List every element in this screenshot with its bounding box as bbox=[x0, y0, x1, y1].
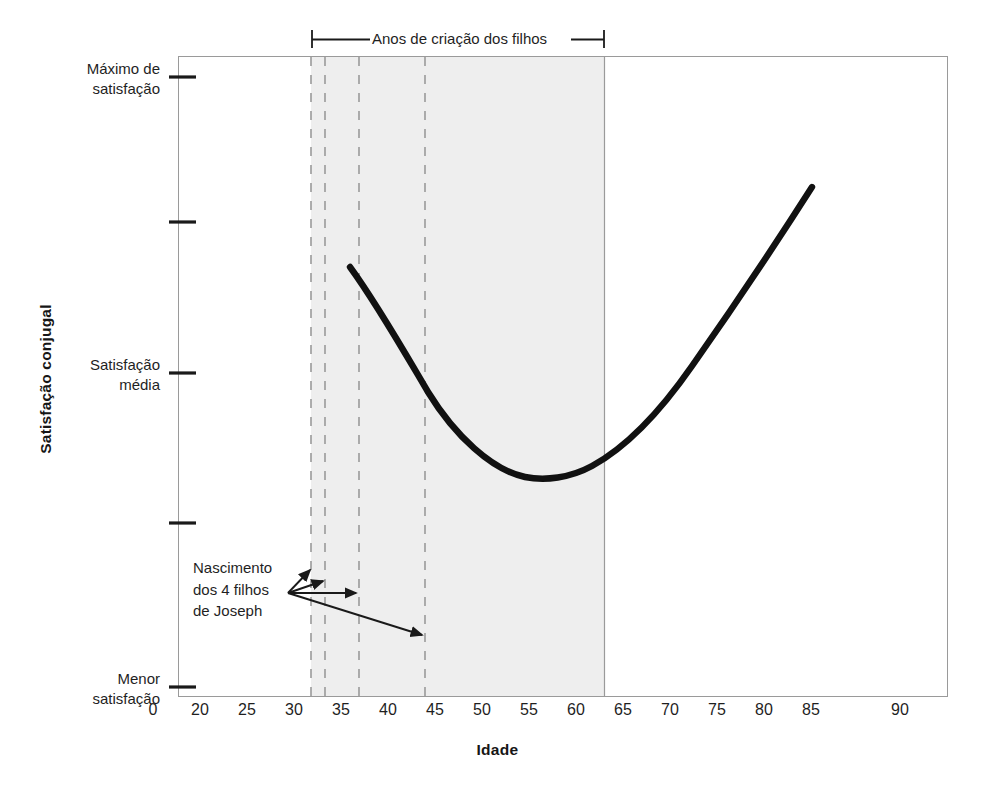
y-axis-title: Satisfação conjugal bbox=[37, 269, 55, 489]
x-tick-label-40: 40 bbox=[368, 701, 408, 719]
x-tick-label-50: 50 bbox=[462, 701, 502, 719]
x-tick-label-85: 85 bbox=[791, 701, 831, 719]
x-tick-label-55: 55 bbox=[509, 701, 549, 719]
y-tick-label-mid-line2: média bbox=[10, 375, 160, 395]
x-tick-label-80: 80 bbox=[744, 701, 784, 719]
x-tick-label-25: 25 bbox=[227, 701, 267, 719]
x-axis-title: Idade bbox=[0, 741, 995, 759]
y-tick-label-mid-line1: Satisfação bbox=[10, 355, 160, 375]
y-tick-label-max-line2: satisfação bbox=[10, 79, 160, 99]
x-tick-label-30: 30 bbox=[274, 701, 314, 719]
x-tick-label-60: 60 bbox=[556, 701, 596, 719]
child-rearing-bracket-label: Anos de criação dos filhos bbox=[372, 30, 547, 47]
birth-annotation-label: Nascimento dos 4 filhos de Joseph bbox=[193, 557, 272, 622]
y-tick-label-max-line1: Máximo de bbox=[10, 59, 160, 79]
x-tick-label-70: 70 bbox=[650, 701, 690, 719]
x-tick-label-65: 65 bbox=[603, 701, 643, 719]
y-tick-label-min-line1: Menor bbox=[10, 669, 160, 689]
chart-figure: Anos de criação dos filhos Máximo de sat… bbox=[0, 0, 995, 801]
x-tick-label-0: 0 bbox=[133, 701, 173, 719]
x-tick-label-35: 35 bbox=[321, 701, 361, 719]
x-tick-label-90: 90 bbox=[880, 701, 920, 719]
x-tick-label-75: 75 bbox=[697, 701, 737, 719]
x-tick-label-45: 45 bbox=[415, 701, 455, 719]
shaded-region-child-rearing bbox=[311, 57, 604, 696]
x-tick-label-20: 20 bbox=[180, 701, 220, 719]
